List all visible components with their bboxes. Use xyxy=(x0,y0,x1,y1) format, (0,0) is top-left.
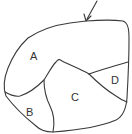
region-label-b: B xyxy=(26,106,33,118)
arrow-shaft xyxy=(87,1,97,19)
boundary-a-d xyxy=(89,62,128,74)
boundary-b-c xyxy=(44,80,54,132)
region-diagram: A B C D xyxy=(0,0,132,134)
region-label-c: C xyxy=(71,91,79,103)
region-label-a: A xyxy=(30,50,38,62)
region-label-d: D xyxy=(111,74,119,86)
boundary-c-d xyxy=(89,74,127,102)
